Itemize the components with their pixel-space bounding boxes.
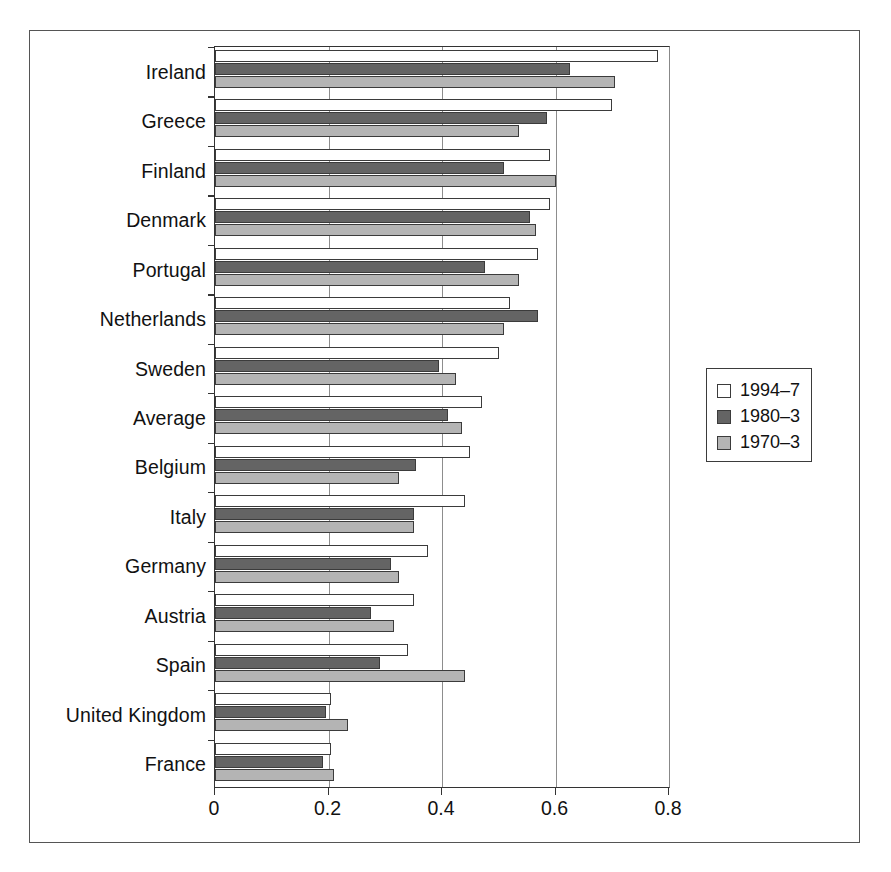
bar [215, 373, 456, 385]
bar [215, 360, 439, 372]
x-axis-tick [214, 788, 215, 795]
bar [215, 248, 538, 260]
bar [215, 396, 482, 408]
y-axis-tick-label: Denmark [126, 209, 206, 232]
y-axis-tick-label: Austria [145, 604, 206, 627]
plot-area: IrelandGreeceFinlandDenmarkPortugalNethe… [214, 46, 670, 788]
bar-group: Italy [215, 492, 669, 541]
bar [215, 175, 556, 187]
bar [215, 743, 331, 755]
bar [215, 571, 399, 583]
bar-group: Netherlands [215, 294, 669, 343]
bar [215, 472, 399, 484]
bar [215, 274, 519, 286]
legend-item: 1980–3 [717, 404, 811, 429]
bar [215, 422, 462, 434]
x-axis-tick-label: 0 [209, 797, 220, 820]
y-axis-tick [208, 641, 215, 642]
bar [215, 76, 615, 88]
x-axis-tick [555, 788, 556, 795]
bar [215, 323, 504, 335]
x-axis: 00.20.40.60.8 [214, 795, 670, 825]
y-axis-tick [208, 690, 215, 691]
bar [215, 125, 519, 137]
y-axis-tick [208, 542, 215, 543]
x-axis-tick-label: 0.2 [314, 797, 341, 820]
x-axis-tick [668, 788, 669, 795]
bar [215, 149, 550, 161]
y-axis-tick-label: Netherlands [100, 308, 206, 331]
y-axis-tick-label: Portugal [133, 258, 206, 281]
bar [215, 297, 510, 309]
bar [215, 198, 550, 210]
bar-group: Portugal [215, 245, 669, 294]
bar-group: Finland [215, 146, 669, 195]
bar-group: Austria [215, 591, 669, 640]
bar [215, 459, 416, 471]
y-axis-tick [208, 344, 215, 345]
y-axis-tick-label: United Kingdom [66, 703, 206, 726]
y-axis-tick-label: Average [133, 406, 206, 429]
bar [215, 706, 326, 718]
y-axis-tick-label: Belgium [135, 456, 206, 479]
figure: IrelandGreeceFinlandDenmarkPortugalNethe… [0, 0, 891, 872]
bar-group: Ireland [215, 47, 669, 96]
bar-group: Greece [215, 96, 669, 145]
y-axis-tick [208, 245, 215, 246]
y-axis-tick [208, 47, 215, 48]
bar [215, 521, 414, 533]
bar [215, 211, 530, 223]
y-axis-tick-label: Germany [125, 555, 206, 578]
bar [215, 112, 547, 124]
y-axis-tick [208, 591, 215, 592]
y-axis-tick [208, 195, 215, 196]
bar [215, 409, 448, 421]
y-axis-tick-label: Spain [156, 654, 206, 677]
bar [215, 756, 323, 768]
y-axis-tick [208, 492, 215, 493]
bar [215, 162, 504, 174]
legend-item-label: 1980–3 [740, 406, 800, 427]
y-axis-tick-label: Finland [141, 159, 206, 182]
x-axis-tick [328, 788, 329, 795]
bar [215, 99, 612, 111]
y-axis-tick [208, 96, 215, 97]
y-axis-tick-label: France [145, 753, 206, 776]
bar [215, 558, 391, 570]
bar [215, 261, 485, 273]
bar [215, 620, 394, 632]
bar [215, 607, 371, 619]
white-square-icon [717, 384, 731, 398]
y-axis-tick-label: Ireland [146, 60, 206, 83]
y-axis-tick-label: Italy [170, 505, 206, 528]
bar [215, 769, 334, 781]
legend-item-label: 1994–7 [740, 380, 800, 401]
legend-item: 1994–7 [717, 378, 811, 403]
bar-group: United Kingdom [215, 690, 669, 739]
bar [215, 545, 428, 557]
legend-item: 1970–3 [717, 430, 811, 455]
bar [215, 495, 465, 507]
x-axis-tick-label: 0.4 [427, 797, 454, 820]
y-axis-tick [208, 393, 215, 394]
bar [215, 446, 470, 458]
bar-group: Sweden [215, 344, 669, 393]
y-axis-tick [208, 146, 215, 147]
y-axis-tick [208, 294, 215, 295]
y-axis-tick [208, 740, 215, 741]
bar [215, 310, 538, 322]
legend: 1994–71980–31970–3 [706, 368, 812, 462]
bar-group: Germany [215, 542, 669, 591]
x-axis-tick-label: 0.6 [541, 797, 568, 820]
bar [215, 719, 348, 731]
bar [215, 644, 408, 656]
bar [215, 670, 465, 682]
x-axis-tick-label: 0.8 [654, 797, 681, 820]
bar-group: France [215, 740, 669, 789]
bar [215, 508, 414, 520]
x-axis-tick [441, 788, 442, 795]
bar [215, 63, 570, 75]
bar [215, 50, 658, 62]
y-axis-tick-label: Greece [141, 110, 206, 133]
bar [215, 347, 499, 359]
